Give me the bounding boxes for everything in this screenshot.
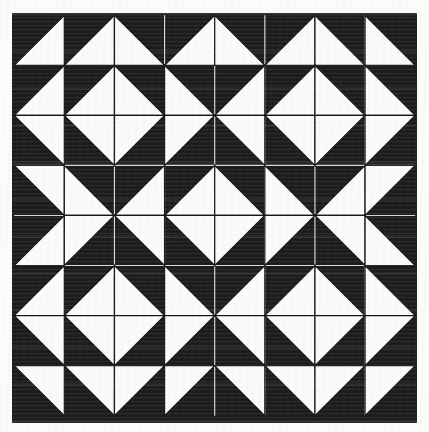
quilt-pattern-image: [0, 0, 429, 432]
scanned-page: [0, 0, 429, 432]
pattern-figure: [0, 0, 429, 432]
